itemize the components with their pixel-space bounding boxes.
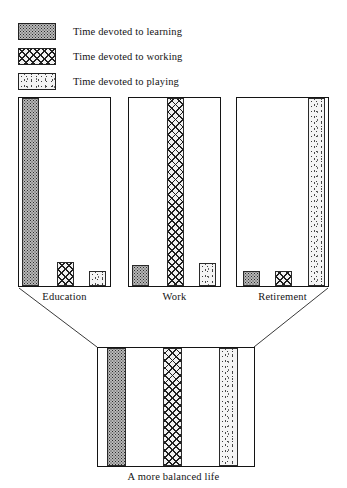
bar-learning bbox=[107, 348, 126, 466]
panel-retirement bbox=[236, 97, 329, 287]
learning-swatch bbox=[18, 23, 56, 40]
bar-working bbox=[167, 98, 184, 286]
legend-item-playing: Time devoted to playing bbox=[18, 73, 218, 91]
legend-item-label: Time devoted to working bbox=[73, 49, 183, 64]
bar-working bbox=[275, 271, 292, 286]
panel-label-retirement: Retirement bbox=[236, 290, 329, 304]
panel-label-work: Work bbox=[128, 290, 221, 304]
legend-item-learning: Time devoted to learning bbox=[18, 23, 218, 41]
bar-playing bbox=[308, 98, 325, 286]
legend-item-label: Time devoted to playing bbox=[73, 74, 179, 89]
figure-caption: A more balanced life bbox=[0, 470, 347, 484]
panel-work bbox=[128, 97, 221, 287]
bar-learning bbox=[132, 265, 149, 286]
legend-item-working: Time devoted to working bbox=[18, 48, 218, 66]
playing-swatch bbox=[18, 73, 56, 90]
panel-education bbox=[18, 97, 111, 287]
bar-working bbox=[57, 262, 74, 286]
working-swatch bbox=[18, 48, 56, 65]
panel-balanced-life bbox=[97, 347, 255, 467]
life-stages-time-allocation-figure: Time devoted to learning Time devoted to… bbox=[0, 0, 347, 488]
bar-learning bbox=[22, 98, 39, 286]
bar-working bbox=[163, 348, 182, 466]
legend-item-label: Time devoted to learning bbox=[73, 24, 182, 39]
bar-playing bbox=[89, 271, 106, 286]
panel-label-education: Education bbox=[18, 290, 111, 304]
bar-playing bbox=[199, 263, 216, 286]
bar-playing bbox=[219, 348, 238, 466]
bar-learning bbox=[243, 271, 260, 286]
